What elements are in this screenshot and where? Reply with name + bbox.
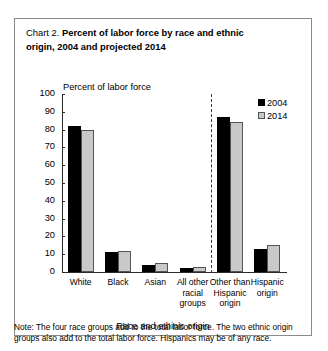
bar-2014: [267, 245, 280, 272]
chart-frame: Chart 2. Percent of labor force by race …: [14, 18, 312, 336]
bar-2004: [142, 265, 155, 272]
bar-2004: [68, 126, 81, 272]
bar-group: Asian: [137, 94, 174, 272]
plot-area: WhiteBlackAsianAll otherracialgroupsOthe…: [62, 94, 286, 272]
chart-title: Chart 2. Percent of labor force by race …: [26, 26, 298, 53]
chart-note: Note: The four race groups add to the to…: [14, 322, 314, 343]
bar-2014: [193, 267, 206, 272]
bar-group: All otherracialgroups: [174, 94, 211, 272]
chart-title-line2: origin, 2004 and projected 2014: [26, 41, 166, 52]
bar-pair: [174, 94, 211, 272]
y-tick-label: 60: [15, 159, 55, 169]
bar-pair: [137, 94, 174, 272]
bar-2004: [254, 249, 267, 272]
y-tick-label: 30: [15, 213, 55, 223]
bar-group: White: [62, 94, 99, 272]
bar-pair: [211, 94, 248, 272]
y-tick-label: 0: [15, 266, 55, 276]
bar-2014: [118, 251, 131, 272]
y-tick-label: 100: [15, 88, 55, 98]
bar-2014: [230, 122, 243, 272]
bar-group: Black: [99, 94, 136, 272]
y-tick-label: 50: [15, 177, 55, 187]
y-tick-label: 20: [15, 230, 55, 240]
bar-2004: [180, 268, 193, 272]
bar-2014: [81, 130, 94, 272]
y-tick-label: 80: [15, 124, 55, 134]
y-tick-label: 70: [15, 141, 55, 151]
bar-group: Other thanHispanicorigin: [211, 94, 248, 272]
bar-pair: [249, 94, 286, 272]
bar-pair: [99, 94, 136, 272]
x-tick-label: Hispanicorigin: [239, 277, 296, 298]
y-tick-label: 10: [15, 248, 55, 258]
y-tick-label: 40: [15, 195, 55, 205]
x-axis-line: [62, 272, 287, 273]
bar-2004: [105, 252, 118, 272]
bar-2014: [155, 263, 168, 272]
bar-pair: [62, 94, 99, 272]
y-axis-label: Percent of labor force: [63, 82, 151, 92]
bar-2004: [217, 117, 230, 272]
bar-group: Hispanicorigin: [249, 94, 286, 272]
chart-title-line1: Percent of labor force by race and ethni…: [62, 27, 244, 38]
chart-number: Chart 2.: [26, 27, 59, 38]
y-tick-label: 90: [15, 106, 55, 116]
